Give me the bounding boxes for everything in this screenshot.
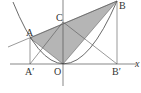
geometry-diagram: A B C O A′ B′ x (0, 0, 141, 93)
label-B-prime: B′ (112, 66, 121, 77)
label-x-axis: x (134, 58, 140, 69)
label-A: A (26, 27, 34, 38)
label-B: B (119, 0, 126, 11)
label-O: O (54, 66, 61, 77)
label-C: C (56, 12, 63, 23)
label-A-prime: A′ (25, 66, 34, 77)
